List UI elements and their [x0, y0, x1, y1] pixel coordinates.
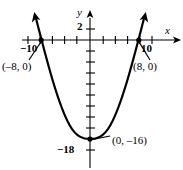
point-label-root-left: (–8, 0): [2, 61, 31, 72]
x-axis: [22, 37, 181, 44]
y-tick-label-2: 2: [77, 21, 83, 32]
point-root-left: [39, 37, 44, 42]
y-axis-label: y: [77, 7, 82, 18]
y-axis: [87, 10, 94, 168]
graph-screenshot: y x 2 −10 10 −18 (–8, 0) (8, 0) (0, –16): [0, 0, 183, 170]
point-label-vertex: (0, –16): [112, 135, 147, 146]
x-tick-label-10: 10: [141, 43, 152, 54]
x-tick-label-neg10: −10: [20, 43, 37, 54]
x-axis-label: x: [165, 25, 170, 36]
parabola-plot: [0, 0, 183, 170]
point-vertex: [87, 136, 92, 141]
y-tick-label-neg18: −18: [57, 144, 74, 155]
point-label-root-right: (8, 0): [133, 61, 157, 72]
